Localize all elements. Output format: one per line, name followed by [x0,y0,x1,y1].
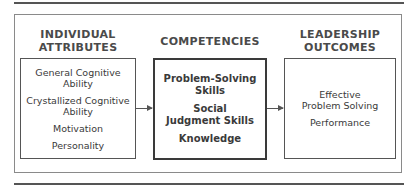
outcome-item: Performance [310,117,370,128]
individual-attributes-box: General Cognitive Ability Crystallized C… [20,58,136,159]
arrow-right-icon [136,108,152,109]
attribute-item: Crystallized Cognitive Ability [23,95,133,117]
attribute-item: Personality [52,140,104,151]
title-line: INDIVIDUAL [20,28,136,41]
attribute-item: General Cognitive Ability [33,67,123,89]
title-line: COMPETENCIES [153,35,267,48]
outcome-item: Effective Problem Solving [300,89,380,111]
competency-item: Knowledge [179,133,241,145]
top-rule [14,2,404,4]
competencies-box: Problem-Solving Skills Social Judgment S… [153,58,267,160]
title-line: ATTRIBUTES [20,41,136,54]
bottom-rule [14,183,404,185]
individual-attributes-title: INDIVIDUAL ATTRIBUTES [20,28,136,54]
competencies-title: COMPETENCIES [153,35,267,48]
competency-item: Problem-Solving Skills [160,73,260,97]
title-line: OUTCOMES [284,41,396,54]
attribute-item: Motivation [53,123,103,134]
arrow-right-icon [267,108,283,109]
title-line: LEADERSHIP [284,28,396,41]
competency-item: Social Judgment Skills [165,103,255,127]
leadership-outcomes-title: LEADERSHIP OUTCOMES [284,28,396,54]
leadership-outcomes-box: Effective Problem Solving Performance [284,58,396,159]
